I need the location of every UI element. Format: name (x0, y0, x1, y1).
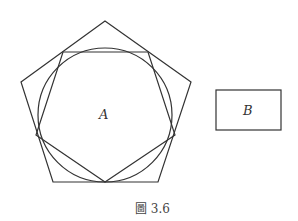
figure-canvas: A B (0, 0, 298, 221)
label-b: B (242, 103, 253, 118)
label-a: A (98, 107, 108, 122)
figure-caption: 圖 3.6 (135, 199, 170, 216)
